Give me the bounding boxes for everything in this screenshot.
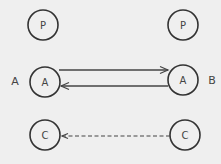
node-p-left: P bbox=[28, 10, 58, 40]
side-label-left: A bbox=[11, 75, 19, 88]
node-p-right: P bbox=[168, 10, 198, 40]
node-a-left: A bbox=[30, 67, 60, 97]
node-c-left: C bbox=[30, 120, 60, 150]
node-a-right: A bbox=[168, 65, 198, 95]
node-label: P bbox=[40, 20, 46, 31]
diagram-canvas: A B P P A A C C bbox=[0, 0, 221, 164]
edge-c-right-to-c-left bbox=[62, 134, 170, 139]
node-label: C bbox=[182, 130, 189, 141]
node-label: A bbox=[42, 77, 49, 88]
node-label: A bbox=[180, 75, 187, 86]
edge-a-right-to-a-left bbox=[61, 83, 168, 90]
node-label: C bbox=[42, 130, 49, 141]
edge-a-left-to-a-right bbox=[59, 67, 168, 74]
node-label: P bbox=[180, 20, 186, 31]
node-c-right: C bbox=[170, 120, 200, 150]
side-label-right: B bbox=[208, 74, 216, 87]
